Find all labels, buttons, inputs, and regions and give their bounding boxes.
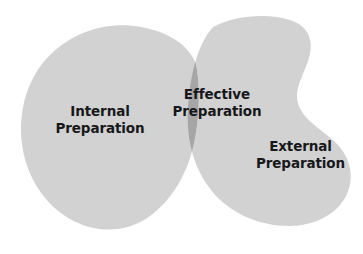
intersection-label-effective: Effective Preparation <box>165 86 269 121</box>
set-external-shape <box>188 16 351 226</box>
intersection-label-effective-line2: Preparation <box>165 103 269 120</box>
set-label-internal-line2: Preparation <box>44 120 156 137</box>
set-label-external: External Preparation <box>243 138 358 173</box>
intersection-label-effective-line1: Effective <box>165 86 269 103</box>
set-label-internal-line1: Internal <box>44 103 156 120</box>
set-label-internal: Internal Preparation <box>44 103 156 138</box>
set-label-external-line2: Preparation <box>243 155 358 172</box>
venn-diagram: Internal Preparation Effective Preparati… <box>0 0 363 254</box>
set-label-external-line1: External <box>243 138 358 155</box>
